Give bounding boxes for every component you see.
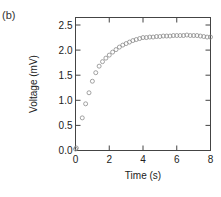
y-tick-label: 0.0 [59,145,73,156]
data-point [84,102,88,106]
data-point [80,116,84,120]
x-axis-label: Time (s) [125,170,161,181]
data-point [74,146,78,150]
data-point [104,56,108,60]
data-point [97,64,101,68]
x-tick-label: 8 [208,154,214,165]
x-tick-label: 6 [174,154,180,165]
y-tick-label: 1.0 [59,95,73,106]
y-tick-label: 2.0 [59,45,73,56]
y-tick-label: 0.5 [59,120,73,131]
data-point [101,60,105,64]
y-tick-label: 1.5 [59,70,73,81]
data-point [90,79,94,83]
x-tick-label: 2 [106,154,112,165]
y-tick-label: 2.5 [59,20,73,31]
data-point [87,91,91,95]
x-tick-label: 4 [140,154,146,165]
x-tick-label: 0 [73,154,79,165]
y-axis-label: Voltage (mV) [28,55,39,113]
voltage-time-chart: 024680.00.51.01.52.02.5Time (s)Voltage (… [0,0,221,197]
data-point [107,53,111,57]
data-point [94,71,98,75]
